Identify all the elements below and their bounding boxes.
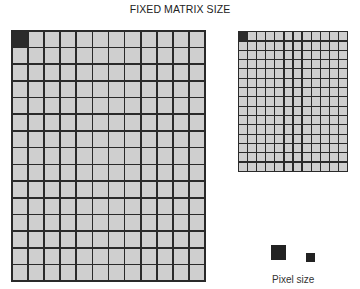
matrix-pixel [93, 32, 108, 47]
matrix-pixel [125, 132, 140, 147]
matrix-pixel [294, 69, 302, 77]
matrix-pixel [339, 116, 347, 124]
matrix-pixel [142, 199, 157, 214]
matrix-pixel [321, 88, 329, 96]
matrix-pixel [321, 42, 329, 50]
matrix-pixel [248, 51, 256, 59]
matrix-pixel [312, 88, 320, 96]
matrix-pixel [257, 51, 265, 59]
matrix-pixel [190, 232, 205, 247]
matrix-pixel [13, 148, 28, 163]
matrix-pixel [294, 107, 302, 115]
matrix-pixel [257, 32, 265, 40]
matrix-pixel [339, 107, 347, 115]
matrix-pixel [312, 60, 320, 68]
matrix-pixel [174, 82, 189, 97]
matrix-pixel [303, 60, 311, 68]
matrix-pixel [61, 199, 76, 214]
matrix-pixel [158, 232, 173, 247]
matrix-pixel [266, 97, 274, 105]
matrix-pixel [61, 132, 76, 147]
matrix-pixel [239, 88, 247, 96]
large-pixel-swatch [271, 245, 286, 260]
matrix-pixel [239, 153, 247, 161]
matrix-pixel [321, 51, 329, 59]
matrix-pixel [275, 153, 283, 161]
matrix-pixel [275, 88, 283, 96]
matrix-pixel [266, 51, 274, 59]
matrix-pixel [77, 165, 92, 180]
matrix-pixel [190, 65, 205, 80]
matrix-pixel [285, 116, 293, 124]
matrix-pixel [275, 107, 283, 115]
matrix-pixel [29, 199, 44, 214]
matrix-pixel [330, 88, 338, 96]
matrix-pixel [158, 48, 173, 63]
matrix-pixel [109, 199, 124, 214]
matrix-pixel [93, 265, 108, 280]
matrix-pixel [248, 153, 256, 161]
matrix-pixel [248, 88, 256, 96]
matrix-pixel [142, 115, 157, 130]
matrix-pixel [158, 215, 173, 230]
matrix-pixel [29, 148, 44, 163]
matrix-pixel [174, 232, 189, 247]
matrix-pixel [321, 153, 329, 161]
matrix-pixel [77, 65, 92, 80]
matrix-pixel [125, 249, 140, 264]
matrix-pixel [294, 88, 302, 96]
matrix-pixel [61, 148, 76, 163]
matrix-pixel [190, 199, 205, 214]
matrix-pixel [93, 199, 108, 214]
matrix-pixel [77, 199, 92, 214]
matrix-pixel [158, 182, 173, 197]
matrix-pixel [190, 165, 205, 180]
matrix-pixel [248, 116, 256, 124]
matrix-pixel [303, 163, 311, 171]
matrix-pixel [257, 60, 265, 68]
matrix-pixel [45, 182, 60, 197]
matrix-pixel [248, 125, 256, 133]
matrix-pixel [248, 163, 256, 171]
matrix-pixel [239, 135, 247, 143]
matrix-pixel [339, 88, 347, 96]
highlighted-pixel [239, 32, 247, 40]
matrix-pixel [339, 42, 347, 50]
matrix-pixel [321, 135, 329, 143]
matrix-pixel [248, 42, 256, 50]
matrix-pixel [266, 79, 274, 87]
matrix-pixel [190, 82, 205, 97]
matrix-pixel [266, 69, 274, 77]
matrix-pixel [294, 153, 302, 161]
matrix-pixel [61, 115, 76, 130]
matrix-pixel [312, 144, 320, 152]
matrix-pixel [142, 265, 157, 280]
matrix-pixel [77, 148, 92, 163]
matrix-pixel [45, 82, 60, 97]
matrix-pixel [61, 48, 76, 63]
matrix-pixel [190, 32, 205, 47]
matrix-pixel [303, 125, 311, 133]
matrix-pixel [93, 165, 108, 180]
matrix-pixel [13, 249, 28, 264]
matrix-pixel [174, 182, 189, 197]
matrix-pixel [109, 82, 124, 97]
matrix-pixel [285, 97, 293, 105]
matrix-pixel [29, 232, 44, 247]
matrix-pixel [339, 51, 347, 59]
matrix-pixel [257, 107, 265, 115]
matrix-pixel [275, 116, 283, 124]
pixel-size-label: Pixel size [272, 274, 314, 285]
matrix-pixel [93, 65, 108, 80]
matrix-pixel [45, 132, 60, 147]
matrix-pixel [61, 232, 76, 247]
matrix-pixel [142, 249, 157, 264]
matrix-pixel [312, 32, 320, 40]
matrix-pixel [29, 32, 44, 47]
matrix-pixel [158, 148, 173, 163]
matrix-pixel [190, 48, 205, 63]
matrix-pixel [13, 165, 28, 180]
matrix-pixel [158, 249, 173, 264]
matrix-pixel [125, 199, 140, 214]
matrix-pixel [93, 98, 108, 113]
